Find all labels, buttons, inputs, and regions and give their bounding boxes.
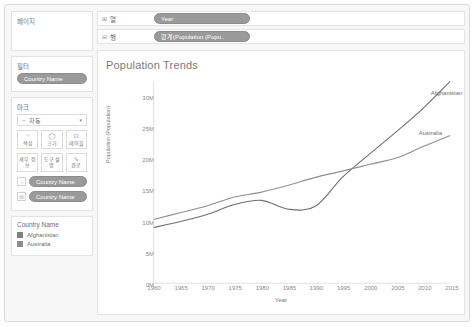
pages-card[interactable]: 페이지 (11, 11, 93, 51)
rows-grid-icon: ⊟ (102, 33, 107, 40)
legend-label-australia: Australia (27, 241, 50, 247)
filters-card[interactable]: 필터 Country Name (11, 56, 93, 92)
size-icon: ◯ (49, 133, 56, 140)
visualization-panel[interactable]: Population Trends Population (Population… (97, 50, 465, 315)
marks-color-label: 색상 (23, 140, 33, 146)
rows-shelf-label: 행 (110, 32, 116, 42)
legend-title: Country Name (17, 221, 87, 228)
marks-size-label: 크기 (47, 140, 57, 146)
legend-item-afghanistan[interactable]: Afghanistan (17, 232, 87, 238)
rows-pill-population[interactable]: 합계(Population (Popu.. (154, 31, 250, 42)
color-icon: ⁘ (25, 133, 30, 140)
marks-title: 마크 (12, 98, 92, 114)
shelf-area: ⊞ 열 Year ⊟ 행 합계(Population (Popu.. (97, 11, 465, 47)
marks-card: 마크 ~ 자동 ▾ ⁘ 색상 ◯ 크기 (11, 97, 93, 211)
marks-detail-label: 세부 정보 (18, 157, 37, 168)
color-shelf-icon: ⁘ (17, 177, 26, 186)
rows-shelf[interactable]: ⊟ 행 합계(Population (Popu.. (97, 29, 465, 44)
tableau-window: 페이지 필터 Country Name 마크 ~ 자동 ▾ ⁘ 색상 (4, 4, 470, 322)
mark-type-icon: ~ (22, 117, 26, 123)
columns-grid-icon: ⊞ (102, 15, 107, 22)
marks-color-button[interactable]: ⁘ 색상 (17, 130, 38, 149)
marks-tooltip-button[interactable]: 도구 설명 (41, 153, 62, 172)
series-label-australia: Australia (419, 130, 442, 136)
series-label-afghanistan: Afghanistan (431, 90, 463, 96)
marks-color-shelf-row: ⁘ Country Name (17, 176, 87, 187)
mark-type-dropdown[interactable]: ~ 자동 ▾ (17, 114, 87, 126)
left-sidebar: 페이지 필터 Country Name 마크 ~ 자동 ▾ ⁘ 색상 (11, 11, 93, 315)
marks-detail-button[interactable]: 세부 정보 (17, 153, 38, 172)
marks-tooltip-label: 도구 설명 (42, 157, 61, 168)
pages-title: 페이지 (12, 12, 92, 28)
label-icon: ⊡ (74, 133, 79, 140)
line-chart-svg (98, 51, 464, 314)
columns-shelf-label: 열 (110, 14, 116, 24)
marks-path-label: 경로 (71, 163, 81, 169)
marks-label-shelf-row: ⊡ Country Name (17, 191, 87, 202)
label-shelf-icon: ⊡ (17, 192, 26, 201)
filter-pill-country-name[interactable]: Country Name (17, 73, 87, 84)
filters-title: 필터 (12, 57, 92, 73)
marks-button-row-2: 세부 정보 도구 설명 ∿ 경로 (17, 153, 87, 172)
legend-swatch-australia (17, 241, 23, 247)
color-legend: Country Name Afghanistan Australia (11, 216, 93, 256)
marks-path-button[interactable]: ∿ 경로 (66, 153, 87, 172)
marks-color-pill[interactable]: Country Name (29, 176, 87, 187)
marks-button-row-1: ⁘ 색상 ◯ 크기 ⊡ 레이블 (17, 130, 87, 149)
chevron-down-icon: ▾ (79, 117, 82, 123)
columns-shelf[interactable]: ⊞ 열 Year (97, 11, 465, 26)
marks-label-label: 레이블 (69, 140, 84, 146)
legend-label-afghanistan: Afghanistan (27, 232, 59, 238)
legend-item-australia[interactable]: Australia (17, 241, 87, 247)
columns-pill-year[interactable]: Year (154, 13, 250, 24)
marks-label-pill[interactable]: Country Name (29, 191, 87, 202)
mark-type-label: 자동 (29, 116, 80, 125)
series-line-australia[interactable] (154, 136, 450, 220)
marks-size-button[interactable]: ◯ 크기 (41, 130, 62, 149)
legend-swatch-afghanistan (17, 232, 23, 238)
marks-label-button[interactable]: ⊡ 레이블 (66, 130, 87, 149)
